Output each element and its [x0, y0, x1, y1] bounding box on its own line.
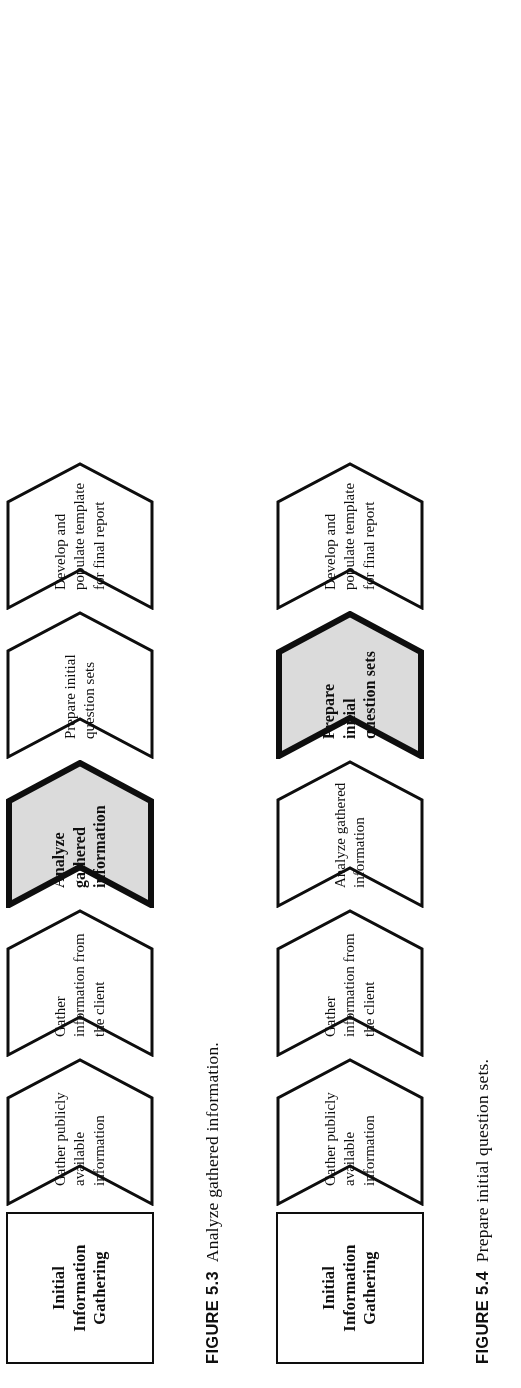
figure-caption-label: FIGURE 5.3 [203, 1271, 221, 1364]
figure-caption: FIGURE 5.4Prepare initial question sets. [472, 1059, 493, 1364]
start-box-line-1: Initial [49, 1244, 70, 1331]
start-box-line-3: Gathering [90, 1244, 111, 1331]
step-develop-and-populate-template-for-final-report: Develop and populate template for final … [276, 462, 424, 610]
step-prepare-initial-question-sets: Prepare initial question sets [276, 611, 424, 759]
start-box-line-2: Information [70, 1244, 91, 1331]
chevron-shape-icon [6, 611, 154, 759]
step-gather-publicly-available-information: Gather publicly available information [276, 1058, 424, 1206]
process-flow-diagram: Initial Information Gathering Gather pub… [6, 461, 184, 1364]
step-gather-information-from-the-client: Gather information from the client [6, 909, 154, 1057]
figure-caption-text: Prepare initial question sets. [472, 1059, 492, 1262]
scanned-page: Initial Information Gathering Gather pub… [0, 0, 521, 1388]
start-box-initial-information-gathering: Initial Information Gathering [276, 1212, 424, 1364]
figure-caption-text: Analyze gathered information. [202, 1042, 222, 1262]
figure-caption: FIGURE 5.3Analyze gathered information. [202, 1042, 223, 1364]
chevron-shape-icon [276, 1058, 424, 1206]
start-box-line-2: Information [340, 1244, 361, 1331]
step-gather-publicly-available-information: Gather publicly available information [6, 1058, 154, 1206]
start-box-line-3: Gathering [360, 1244, 381, 1331]
start-box-label: Initial Information Gathering [319, 1244, 381, 1331]
chevron-shape-highlighted-icon [6, 760, 154, 908]
figure-5-3: Initial Information Gathering Gather pub… [6, 0, 246, 1388]
chevron-shape-icon [6, 1058, 154, 1206]
chevron-shape-icon [6, 462, 154, 610]
figure-caption-label: FIGURE 5.4 [473, 1271, 491, 1364]
step-gather-information-from-the-client: Gather information from the client [276, 909, 424, 1057]
step-analyze-gathered-information: Analyze gathered information [6, 760, 154, 908]
start-box-initial-information-gathering: Initial Information Gathering [6, 1212, 154, 1364]
figure-5-4: Initial Information Gathering Gather pub… [276, 0, 516, 1388]
start-box-label: Initial Information Gathering [49, 1244, 111, 1331]
chevron-shape-icon [6, 909, 154, 1057]
chevron-shape-icon [276, 760, 424, 908]
process-flow-diagram: Initial Information Gathering Gather pub… [276, 461, 454, 1364]
step-analyze-gathered-information: Analyze gathered information [276, 760, 424, 908]
chevron-shape-highlighted-icon [276, 611, 424, 759]
start-box-line-1: Initial [319, 1244, 340, 1331]
chevron-shape-icon [276, 462, 424, 610]
step-prepare-initial-question-sets: Prepare initial question sets [6, 611, 154, 759]
chevron-shape-icon [276, 909, 424, 1057]
step-develop-and-populate-template-for-final-report: Develop and populate template for final … [6, 462, 154, 610]
